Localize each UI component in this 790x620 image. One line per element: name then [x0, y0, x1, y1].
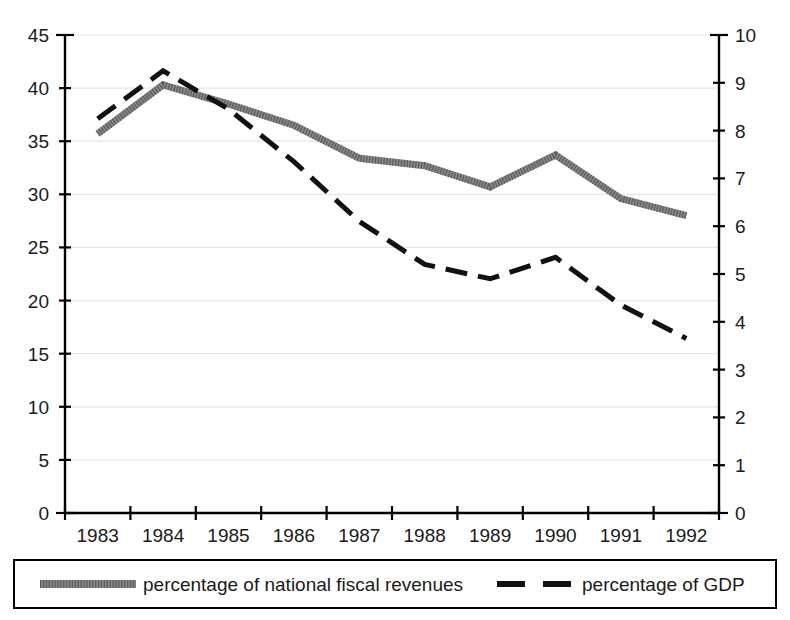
right-axis-tick-label: 4: [735, 312, 746, 333]
legend-label-gdp: percentage of GDP: [582, 574, 745, 595]
left-axis-tick-label: 0: [38, 503, 49, 524]
right-axis-tick-label: 9: [735, 73, 746, 94]
x-axis-tick-label: 1984: [142, 525, 185, 546]
x-axis-tick-label: 1988: [404, 525, 446, 546]
x-axis-tick-label: 1986: [273, 525, 315, 546]
left-axis-tick-label: 45: [28, 25, 49, 46]
left-axis-tick-label: 5: [38, 450, 49, 471]
left-axis-tick-label: 30: [28, 184, 49, 205]
left-axis-tick-label: 15: [28, 344, 49, 365]
left-axis-tick-label: 35: [28, 131, 49, 152]
right-axis-tick-label: 7: [735, 168, 746, 189]
left-axis-tick-label: 10: [28, 397, 49, 418]
x-axis-tick-label: 1991: [600, 525, 642, 546]
x-axis-tick-label: 1990: [534, 525, 576, 546]
x-axis-tick-label: 1987: [338, 525, 380, 546]
legend-label-fiscal-revenues: percentage of national fiscal revenues: [143, 574, 463, 595]
left-axis-tick-label: 20: [28, 291, 49, 312]
chart-legend: percentage of national fiscal revenues p…: [14, 560, 776, 608]
x-axis-tick-label: 1992: [665, 525, 707, 546]
right-axis-tick-label: 10: [735, 25, 756, 46]
left-axis-tick-label: 25: [28, 237, 49, 258]
right-axis-tick-label: 6: [735, 216, 746, 237]
right-axis-tick-label: 1: [735, 455, 746, 476]
right-axis-tick-label: 2: [735, 407, 746, 428]
left-axis-tick-label: 40: [28, 78, 49, 99]
x-axis-tick-label: 1983: [77, 525, 119, 546]
right-axis-tick-label: 3: [735, 360, 746, 381]
right-axis-tick-label: 0: [735, 503, 746, 524]
right-axis-tick-label: 8: [735, 121, 746, 142]
chart-figure: 051015202530354045 012345678910 19831984…: [0, 0, 790, 620]
x-axis-tick-label: 1985: [207, 525, 249, 546]
right-axis-tick-label: 5: [735, 264, 746, 285]
x-axis-tick-label: 1989: [469, 525, 511, 546]
